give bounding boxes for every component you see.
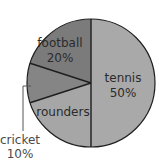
label-tennis: tennis [105,71,142,85]
pie-chart: football 20% tennis 50% rounders cricket… [0,0,159,163]
label-cricket-pct: 10% [7,147,34,161]
label-football: football [37,36,82,50]
label-cricket: cricket [0,133,40,147]
label-tennis-pct: 50% [110,86,137,100]
label-football-pct: 20% [47,51,74,65]
label-rounders: rounders [36,105,89,119]
